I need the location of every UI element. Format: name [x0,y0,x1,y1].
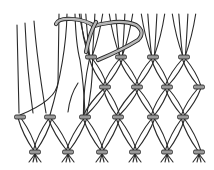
square-knot [130,150,141,154]
square-knot [132,85,143,89]
net-strand [169,89,185,115]
hanging-strand [172,14,182,55]
square-knot [178,115,189,119]
square-knot [148,55,159,59]
cord-strands [17,14,205,162]
square-knot [162,85,173,89]
net-strand [135,89,151,115]
loose-strand [17,25,19,113]
net-strand [116,119,133,150]
loose-strand [25,23,33,113]
working-cord-fill [56,19,142,60]
net-strand [100,119,116,150]
square-knot [97,150,108,154]
square-knot [113,115,124,119]
square-knot [100,85,111,89]
loose-strand [20,14,59,115]
square-knot [63,150,74,154]
net-strand [66,119,83,150]
net-strand [116,89,135,115]
square-knot [80,115,91,119]
net-strand [83,119,100,150]
net-strand [107,59,123,85]
square-knot [148,115,159,119]
net-strand [185,119,201,150]
net-strand [83,89,103,115]
net-strand [87,119,104,150]
net-strand [119,59,135,85]
net-strand [133,119,151,150]
square-knot [15,115,26,119]
macrame-net-drawing [0,0,214,170]
net-strand [137,119,155,150]
working-cord [56,19,142,60]
square-knot [194,85,205,89]
loose-strand [34,21,46,113]
net-strand [135,59,151,85]
net-strand [104,119,120,150]
square-knot [116,55,127,59]
loose-end [68,83,78,112]
square-knot [162,150,173,154]
net-strand [181,119,197,150]
square-knot [86,55,97,59]
net-strand [120,119,137,150]
net-strand [48,119,66,150]
net-strand [120,89,139,115]
net-strand [185,89,201,115]
square-knot [45,115,56,119]
square-knot [179,55,190,59]
square-knot [30,150,41,154]
net-strand [181,89,197,115]
net-strand [52,119,70,150]
square-knot [194,150,205,154]
net-strand [123,59,139,85]
net-strand [70,119,87,150]
net-strand [165,59,182,85]
net-strand [169,59,186,85]
net-strand [169,119,185,150]
